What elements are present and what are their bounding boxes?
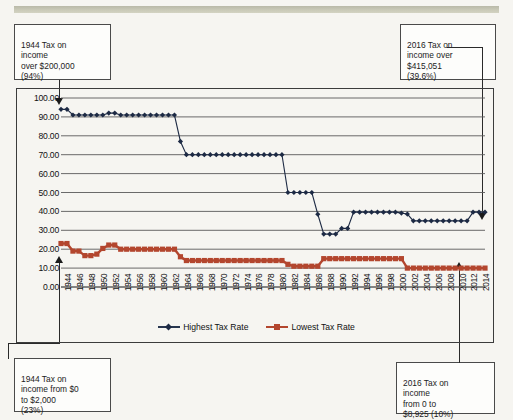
x-tick-label: 1946 [76,274,85,291]
x-tick-label: 1948 [88,274,97,291]
legend-item-highest: Highest Tax Rate [158,322,248,332]
legend-line-highest-icon [158,326,180,327]
x-tick-label: 1962 [172,274,181,291]
x-tick-label: 1994 [363,274,372,291]
chart-legend: Highest Tax Rate Lowest Tax Rate [0,322,513,332]
x-tick-label: 1998 [387,274,396,291]
x-tick-label: 1960 [160,274,169,291]
callout-1944-lowest-leader-h [8,343,60,344]
callout-1944-lowest-leader-v [8,343,9,359]
x-tick-label: 1968 [208,274,217,291]
x-tick-label: 2006 [435,274,444,291]
y-tick-label: 60.00 [17,169,59,179]
x-tick-label: 1964 [184,274,193,291]
x-tick-label: 1972 [232,274,241,291]
y-tick-label: 70.00 [17,150,59,160]
callout-2016-lowest: 2016 Tax on income from 0 to $8,925 (10%… [396,362,495,414]
x-tick-label: 1950 [100,274,109,291]
callout-1944-highest-text: 1944 Tax on income over $200,000 (94%) [21,40,75,82]
x-tick-label: 1988 [327,274,336,291]
legend-line-lowest-icon [266,326,288,327]
y-tick-label: 40.00 [17,206,59,216]
chart-plot-frame: 0.0010.0020.0030.0040.0050.0060.0070.008… [16,88,494,343]
diamond-marker-icon [165,323,172,330]
callout-1944-highest: 1944 Tax on income over $200,000 (94%) [14,24,111,80]
x-tick-label: 1986 [315,274,324,291]
x-tick-label: 1974 [244,274,253,291]
x-tick-label: 1996 [375,274,384,291]
legend-label-lowest: Lowest Tax Rate [291,322,354,332]
x-tick-label: 2004 [423,274,432,291]
y-tick-label: 80.00 [17,131,59,141]
y-tick-label: 20.00 [17,244,59,254]
callout-2016-lowest-text: 2016 Tax on income from 0 to $8,925 (10%… [403,378,453,420]
x-tick-label: 1954 [124,274,133,291]
x-tick-label: 2000 [399,274,408,291]
legend-item-lowest: Lowest Tax Rate [266,322,354,332]
y-tick-label: 10.00 [17,263,59,273]
callout-2016-highest-leader-h [447,47,483,48]
x-tick-label: 2012 [470,274,479,291]
x-tick-label: 1966 [196,274,205,291]
y-tick-label: 100.00 [17,93,59,103]
chart-canvas [17,89,493,342]
x-tick-label: 1944 [64,274,73,291]
x-tick-label: 1958 [148,274,157,291]
x-tick-label: 2010 [459,274,468,291]
x-tick-label: 1992 [351,274,360,291]
x-tick-label: 2008 [447,274,456,291]
x-tick-label: 2002 [411,274,420,291]
x-tick-label: 1982 [291,274,300,291]
square-marker-icon [274,324,280,330]
y-tick-label: 0.00 [17,282,59,292]
callout-2016-highest-text: 2016 Tax on income over $415,051 (39.6%) [407,40,453,82]
x-tick-label: 1952 [112,274,121,291]
y-tick-label: 50.00 [17,188,59,198]
y-tick-label: 30.00 [17,225,59,235]
x-tick-label: 2014 [482,274,491,291]
x-tick-label: 1990 [339,274,348,291]
callout-1944-lowest-text: 1944 Tax on income from $0 to $2,000 (23… [21,374,79,416]
x-tick-label: 1984 [303,274,312,291]
x-tick-label: 1976 [255,274,264,291]
y-tick-label: 90.00 [17,112,59,122]
x-tick-label: 1978 [267,274,276,291]
callout-1944-lowest: 1944 Tax on income from $0 to $2,000 (23… [14,358,111,412]
scan-artifact-bar [14,6,499,13]
legend-label-highest: Highest Tax Rate [183,322,248,332]
x-tick-label: 1970 [220,274,229,291]
x-tick-label: 1980 [279,274,288,291]
x-tick-label: 1956 [136,274,145,291]
